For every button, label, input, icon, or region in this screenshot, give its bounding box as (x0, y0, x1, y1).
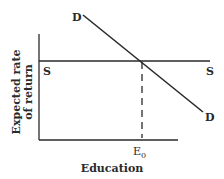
x-axis-label: Education (81, 162, 144, 175)
s-right-label: S (206, 65, 214, 78)
d-top-label: D (72, 11, 82, 24)
education-investment-diagram: D S S D E0 Education Expected rate of re… (0, 0, 224, 179)
y-axis-label-line2: of return (22, 64, 35, 120)
d-bottom-label: D (205, 111, 215, 124)
s-left-label: S (43, 65, 51, 78)
e0-label: E0 (133, 145, 146, 160)
demand-line-d (83, 15, 203, 112)
